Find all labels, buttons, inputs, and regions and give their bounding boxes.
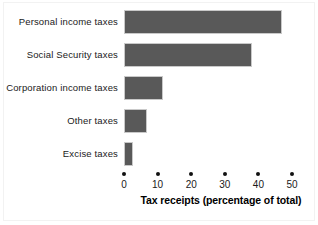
x-tick-40: 40: [243, 170, 273, 191]
tick-dot-icon: [223, 172, 227, 176]
tick-dot-icon: [189, 172, 193, 176]
x-tick-label: 30: [210, 179, 240, 191]
bar-other-taxes: [124, 109, 147, 133]
x-axis-title: Tax receipts (percentage of total): [124, 194, 318, 206]
x-tick-label: 50: [277, 179, 307, 191]
bar-category-label: Excise taxes: [0, 141, 118, 167]
bar-row: Excise taxes: [0, 141, 318, 167]
x-tick-30: 30: [210, 170, 240, 191]
x-tick-10: 10: [143, 170, 173, 191]
bar-chart-figure: Personal income taxes Social Security ta…: [0, 0, 318, 225]
x-tick-0: 0: [109, 170, 139, 191]
x-tick-label: 10: [143, 179, 173, 191]
bar-row: Corporation income taxes: [0, 75, 318, 101]
bar-category-label: Corporation income taxes: [0, 75, 118, 101]
tick-dot-icon: [290, 172, 294, 176]
bar-row: Other taxes: [0, 108, 318, 134]
x-tick-label: 0: [109, 179, 139, 191]
tick-dot-icon: [156, 172, 160, 176]
bar-row: Personal income taxes: [0, 9, 318, 35]
tick-dot-icon: [122, 172, 126, 176]
bar-category-label: Personal income taxes: [0, 9, 118, 35]
bar-category-label: Social Security taxes: [0, 42, 118, 68]
bar-corporation-income-taxes: [124, 76, 163, 100]
bar-excise-taxes: [124, 142, 133, 166]
bar-row: Social Security taxes: [0, 42, 318, 68]
bar-personal-income-taxes: [124, 10, 282, 34]
bar-social-security-taxes: [124, 43, 252, 67]
x-tick-label: 20: [176, 179, 206, 191]
bar-category-label: Other taxes: [0, 108, 118, 134]
x-tick-label: 40: [243, 179, 273, 191]
tick-dot-icon: [256, 172, 260, 176]
x-tick-50: 50: [277, 170, 307, 191]
x-tick-20: 20: [176, 170, 206, 191]
